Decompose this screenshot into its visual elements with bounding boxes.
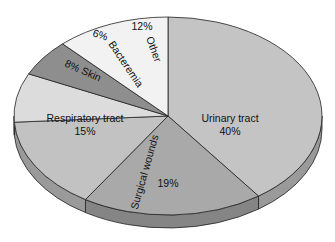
pie-chart: Urinary tract 40% Surgical wounds 19% Re… [0,0,335,242]
label-other-pct: 12% [131,20,152,32]
label-surgical-pct: 19% [157,177,178,189]
label-respiratory-name: Respiratory tract [46,112,123,124]
label-respiratory-pct: 15% [74,125,95,137]
label-urinary-pct: 40% [219,125,240,137]
pie-svg: Urinary tract 40% Surgical wounds 19% Re… [0,0,335,242]
label-urinary-name: Urinary tract [201,112,258,124]
